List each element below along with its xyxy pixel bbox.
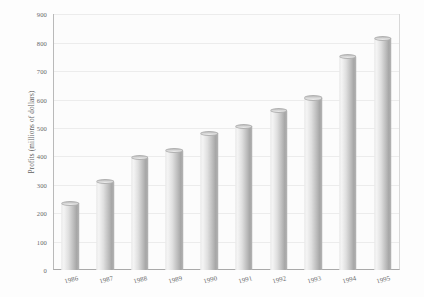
y-tick-label: 900 — [17, 11, 47, 18]
bar-cylinder — [339, 57, 357, 270]
bar-cylinder-cap — [166, 148, 184, 153]
x-tick-label: 1986 — [54, 272, 89, 287]
bar-cylinder — [235, 126, 253, 270]
y-tick-label: 400 — [17, 153, 47, 160]
y-tick-label: 100 — [17, 238, 47, 245]
bar-cylinder — [166, 151, 184, 270]
bar-cylinder — [200, 133, 218, 270]
bar-1987 — [88, 14, 123, 270]
x-tick-label: 1987 — [88, 272, 123, 287]
x-tick-label: 1989 — [158, 272, 193, 287]
bar-cylinder-cap — [131, 155, 149, 160]
bar-cylinder-cap — [235, 124, 253, 129]
bar-cylinder — [374, 38, 392, 270]
bar-1994 — [331, 14, 366, 270]
y-tick-label: 500 — [17, 125, 47, 132]
bar-cylinder-cap — [339, 54, 357, 59]
bar-cylinder — [62, 203, 80, 270]
x-tick-label: 1991 — [227, 272, 262, 287]
y-tick-label: 600 — [17, 96, 47, 103]
x-tick-label: 1988 — [123, 272, 158, 287]
bar-1986 — [53, 14, 88, 270]
x-axis-tick-labels: 1986198719881989199019911992199319941995 — [53, 272, 400, 297]
bar-1989 — [157, 14, 192, 270]
bar-cylinder-cap — [374, 36, 392, 41]
bar-cylinder — [270, 111, 288, 270]
bar-cylinder-cap — [270, 108, 288, 113]
x-tick-label: 1990 — [192, 272, 227, 287]
bar-cylinder-cap — [304, 95, 322, 100]
y-tick-label: 700 — [17, 68, 47, 75]
bar-cylinder — [304, 98, 322, 270]
x-tick-label: 1993 — [296, 272, 331, 287]
bar-chart: Profits (millions of dollars) 0 100 200 … — [0, 0, 424, 297]
bar-cylinder-cap — [96, 179, 114, 184]
bar-1990 — [192, 14, 227, 270]
bar-1992 — [261, 14, 296, 270]
x-tick-label: 1992 — [262, 272, 297, 287]
y-tick-label: 300 — [17, 181, 47, 188]
bar-cylinder — [131, 158, 149, 270]
bar-series — [53, 14, 400, 270]
y-axis-title: Profits (millions of dollars) — [28, 37, 36, 227]
bar-1988 — [122, 14, 157, 270]
y-tick-label: 0 — [17, 267, 47, 274]
y-tick-label: 800 — [17, 39, 47, 46]
bar-cylinder-cap — [200, 131, 218, 136]
bar-cylinder-cap — [62, 201, 80, 206]
x-tick-label: 1995 — [366, 272, 401, 287]
bar-1995 — [365, 14, 400, 270]
x-tick-label: 1994 — [331, 272, 366, 287]
bar-cylinder — [96, 182, 114, 270]
y-tick-label: 200 — [17, 210, 47, 217]
bar-1993 — [296, 14, 331, 270]
bar-1991 — [227, 14, 262, 270]
